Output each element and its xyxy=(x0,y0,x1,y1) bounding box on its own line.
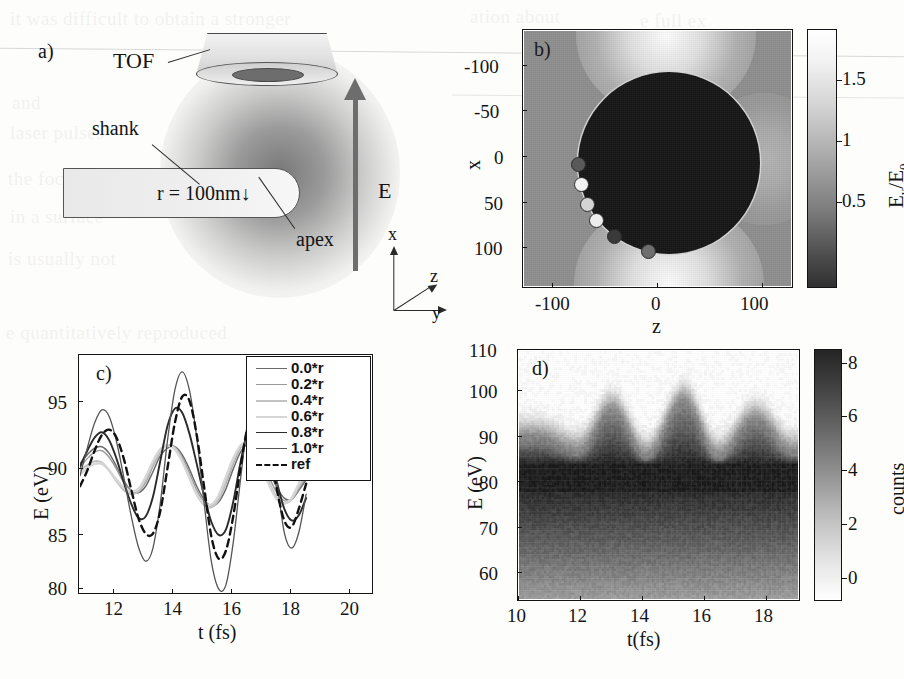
panel-c-xlabel: t (fs) xyxy=(198,621,236,644)
launch-marker xyxy=(607,229,622,244)
field-arrow-shaft xyxy=(353,96,358,271)
panel-d-xlabel: t(fs) xyxy=(627,628,660,651)
panel-b-colorbar-ticklabel: 0.5 xyxy=(842,190,866,212)
panel-d-xtick: 12 xyxy=(568,605,587,627)
panel-d-colorbar xyxy=(814,349,842,601)
legend-label: 0.4*r xyxy=(291,391,324,408)
legend-swatch xyxy=(256,368,287,369)
panel-d-spectrogram: d) 110 100 90 80 70 60 E (eV) 10 12 14 1… xyxy=(452,340,904,679)
panel-c-xtick-mark xyxy=(113,589,114,594)
triad-axis-z xyxy=(394,286,432,311)
panel-b-xtick-mark xyxy=(657,283,658,288)
launch-marker xyxy=(580,197,595,212)
panel-c-ytick: 80 xyxy=(48,578,67,600)
panel-d-colorbar-tick xyxy=(842,416,847,417)
panel-d-xtick-mark xyxy=(580,596,581,601)
triad-label-y: y xyxy=(432,303,441,324)
legend-swatch xyxy=(256,384,287,385)
legend-swatch xyxy=(256,400,287,402)
panel-c-xtick: 20 xyxy=(340,598,359,620)
panel-b-colorbar-label: Ey/E0 xyxy=(884,164,904,209)
panel-b-ytick-mark xyxy=(522,65,527,66)
field-label: E xyxy=(378,178,391,204)
panel-d-spectrogram-image xyxy=(519,351,799,600)
panel-b-xtick: 0 xyxy=(651,293,661,315)
cb-label-sub-y: y xyxy=(896,189,904,196)
panel-c-xtick: 16 xyxy=(222,598,241,620)
legend-swatch xyxy=(256,464,287,466)
panel-c-energy-curves: c) 95 90 85 80 E (eV) 12 14 16 18 20 t (… xyxy=(0,340,452,679)
triad-axis-x xyxy=(393,254,394,311)
tip-radius-arrow-icon: ↓ xyxy=(241,182,251,204)
panel-c-tag: c) xyxy=(96,362,112,385)
panel-b-ytick-mark xyxy=(522,110,527,111)
panel-b-ytick-mark xyxy=(522,247,527,248)
cb-label-divE: /E xyxy=(884,170,904,189)
panel-b-ytick: 0 xyxy=(494,147,504,169)
panel-c-ylabel: E (eV) xyxy=(30,466,53,520)
panel-d-colorbar-ticklabel: 4 xyxy=(848,459,858,481)
tip-radius-value: r = 100nm xyxy=(157,182,241,204)
panel-d-tag: d) xyxy=(532,357,549,380)
panel-b-xlabel: z xyxy=(652,315,661,338)
panel-d-xtick: 18 xyxy=(754,605,773,627)
launch-marker xyxy=(641,244,656,259)
panel-c-xtick-mark xyxy=(290,589,291,594)
panel-b-colorbar xyxy=(807,29,837,288)
triad-label-z: z xyxy=(430,266,438,287)
legend-swatch xyxy=(256,432,287,433)
cb-label-sub-0: 0 xyxy=(896,164,904,171)
triad-label-x: x xyxy=(388,224,397,245)
panel-a-schematic: TOF shank r = 100nm↓ apex E x y z a) xyxy=(0,0,452,340)
panel-d-xtick-mark xyxy=(518,596,519,601)
panel-b-xtick-mark xyxy=(762,283,763,288)
launch-marker xyxy=(574,177,589,192)
apex-label: apex xyxy=(296,228,334,251)
tip-radius-label: r = 100nm↓ xyxy=(157,182,251,205)
panel-d-colorbar-tick xyxy=(842,470,847,471)
panel-c-ytick-mark xyxy=(78,534,83,535)
launch-marker xyxy=(571,157,586,172)
panel-b-colorbar-ticklabel: 1.5 xyxy=(842,68,866,90)
panel-d-colorbar-tick xyxy=(842,524,847,525)
panel-b-ytick: -100 xyxy=(464,56,499,78)
panel-c-xtick-mark xyxy=(172,589,173,594)
panel-d-ytick: 100 xyxy=(469,381,498,403)
panel-d-xtick: 10 xyxy=(507,605,526,627)
panel-d-colorbar-ticklabel: 8 xyxy=(848,352,858,374)
panel-d-colorbar-tick xyxy=(842,363,847,364)
shank-label: shank xyxy=(92,117,139,140)
panel-b-ytick-mark xyxy=(522,156,527,157)
panel-c-xtick: 12 xyxy=(104,598,123,620)
panel-c-ytick-mark xyxy=(78,468,83,469)
panel-d-colorbar-ticklabel: 2 xyxy=(848,513,858,535)
panel-c-legend: 0.0*r0.2*r0.4*r0.6*r0.8*r1.0*rref xyxy=(246,356,371,481)
figure-root: it was difficult to obtain a stronger an… xyxy=(0,0,904,679)
panel-b-ytick-mark xyxy=(522,202,527,203)
panel-c-xtick-mark xyxy=(349,589,350,594)
field-arrow-head-icon xyxy=(344,78,366,100)
panel-d-colorbar-label: counts xyxy=(886,463,904,515)
legend-label: 1.0*r xyxy=(291,439,324,456)
panel-b-field-image xyxy=(524,31,792,287)
panel-b-ytick: -50 xyxy=(474,101,499,123)
cb-label-E: E xyxy=(884,195,904,208)
panel-b-field-map: b) -100 -50 0 50 100 x -100 0 100 z 1.5 … xyxy=(452,0,904,340)
panel-d-ytick: 110 xyxy=(469,340,497,362)
panel-b-ytick: 100 xyxy=(474,238,503,260)
legend-row: 1.0*r xyxy=(251,441,370,457)
panel-c-ytick-mark xyxy=(78,401,83,402)
panel-b-ytick: 50 xyxy=(484,193,503,215)
panel-d-ytick-mark xyxy=(517,527,522,528)
launch-marker xyxy=(589,213,604,228)
panel-d-ytick-mark xyxy=(517,436,522,437)
panel-d-colorbar-tick xyxy=(842,578,847,579)
panel-d-ylabel: E (eV) xyxy=(464,456,487,510)
panel-d-xtick-mark xyxy=(766,596,767,601)
panel-c-ytick-mark xyxy=(78,588,83,589)
legend-label: ref xyxy=(291,455,310,472)
panel-c-xtick: 18 xyxy=(281,598,300,620)
panel-b-xtick: 100 xyxy=(740,293,769,315)
triad-arrow-x-icon xyxy=(390,246,398,255)
spectrogram-noise-texture xyxy=(519,351,799,600)
